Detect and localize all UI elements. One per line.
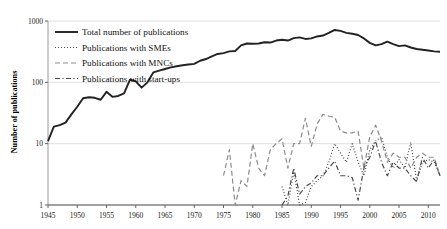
chart-background: [0, 0, 447, 229]
x-tick-label-1980: 1980: [245, 211, 260, 220]
x-tick-label-1990: 1990: [304, 211, 319, 220]
legend-label-0: Total number of publications: [82, 27, 189, 37]
x-tick-label-1955: 1955: [99, 211, 114, 220]
x-tick-label-1975: 1975: [216, 211, 231, 220]
x-tick-label-1995: 1995: [333, 211, 348, 220]
x-tick-label-1965: 1965: [158, 211, 173, 220]
x-tick-label-2010: 2010: [421, 211, 436, 220]
y-tick-label-10: 10: [36, 139, 44, 148]
x-tick-label-1970: 1970: [187, 211, 202, 220]
publications-log-line-chart: 1000100101 19451950195519601965197019751…: [0, 0, 447, 229]
y-tick-label-1000: 1000: [28, 17, 43, 26]
x-tick-label-2005: 2005: [392, 211, 407, 220]
legend-label-2: Publications with MNCs: [82, 58, 173, 68]
x-tick-label-1950: 1950: [70, 211, 85, 220]
chart-container: 1000100101 19451950195519601965197019751…: [0, 0, 447, 229]
x-tick-label-1945: 1945: [41, 211, 56, 220]
x-tick-label-2000: 2000: [362, 211, 377, 220]
legend-label-1: Publications with SMEs: [82, 43, 171, 53]
legend-label-3: Publications with start-ups: [82, 74, 180, 84]
x-tick-label-1985: 1985: [275, 211, 290, 220]
y-axis-title: Number of publications: [10, 71, 19, 154]
x-tick-label-1960: 1960: [128, 211, 143, 220]
y-tick-label-100: 100: [32, 78, 44, 87]
y-tick-label-1: 1: [39, 201, 43, 210]
